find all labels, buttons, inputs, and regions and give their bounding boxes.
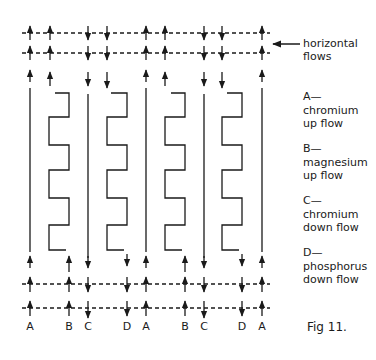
legend-d: D— phosphorus down flow — [303, 246, 367, 287]
legend-b-key: B— — [303, 142, 368, 156]
serpentine-d1 — [107, 93, 127, 250]
serpentine-b2 — [165, 93, 185, 250]
legend-d-key: D— — [303, 246, 367, 260]
figure-caption: Fig 11. — [307, 321, 347, 334]
top-row-arrows — [30, 26, 262, 60]
horizontal-flows-label-line1: horizontal — [303, 37, 358, 50]
column-exit-arrows — [30, 254, 262, 272]
column-label-a3: A — [258, 321, 266, 333]
bottom-row-arrows — [30, 277, 262, 318]
column-label-d1: D — [123, 321, 131, 333]
serpentine-b1 — [49, 93, 69, 250]
horizontal-flows-label: horizontal flows — [303, 37, 358, 63]
legend-a-key: A— — [303, 90, 359, 104]
legend-c: C— chromium down flow — [303, 194, 359, 235]
column-label-b2: B — [181, 321, 189, 333]
legend-b: B— magnesium up flow — [303, 142, 368, 183]
legend-a-line2: up flow — [303, 117, 359, 131]
legend-d-line1: phosphorus — [303, 260, 367, 274]
column-label-b1: B — [65, 321, 73, 333]
legend-b-line2: up flow — [303, 169, 368, 183]
legend-c-key: C— — [303, 194, 359, 208]
legend-d-line2: down flow — [303, 273, 367, 287]
column-label-d2: D — [238, 321, 246, 333]
legend-a: A— chromium up flow — [303, 90, 359, 131]
column-entry-arrows — [30, 70, 262, 88]
legend-a-line1: chromium — [303, 104, 359, 118]
legend-b-line1: magnesium — [303, 156, 368, 170]
serpentine-d2 — [222, 93, 242, 250]
column-label-a2: A — [142, 321, 150, 333]
column-label-c1: C — [84, 321, 92, 333]
column-label-c2: C — [200, 321, 208, 333]
horizontal-flows-label-line2: flows — [303, 50, 358, 63]
legend-c-line2: down flow — [303, 221, 359, 235]
legend-c-line1: chromium — [303, 208, 359, 222]
straight-columns — [30, 88, 262, 258]
column-label-a1: A — [26, 321, 34, 333]
